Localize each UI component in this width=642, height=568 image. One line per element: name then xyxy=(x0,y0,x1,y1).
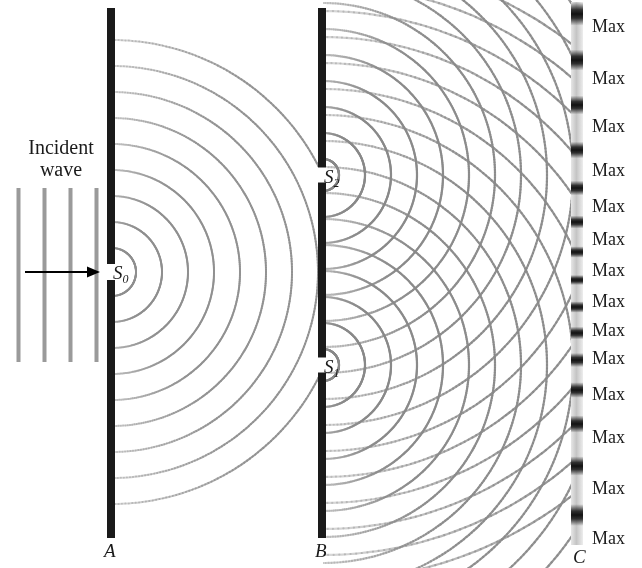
max-label: Max xyxy=(592,196,625,216)
max-label: Max xyxy=(592,260,625,280)
slit-s1-subscript: 1 xyxy=(334,366,340,380)
incident-wave-label-line1: Incident xyxy=(6,136,116,158)
slit-s1-label: S1 xyxy=(324,356,340,377)
wave-field-canvas xyxy=(0,0,642,568)
barrier-a-label: A xyxy=(104,540,116,561)
max-label: Max xyxy=(592,384,625,404)
max-label: Max xyxy=(592,160,625,180)
slit-s0-label: S0 xyxy=(113,262,129,283)
double-slit-diagram: Incident wave A B C S0 S2 S1 MaxMaxMaxMa… xyxy=(0,0,642,568)
slit-s2-label: S2 xyxy=(324,166,340,187)
barrier-b-label: B xyxy=(315,540,327,561)
max-label: Max xyxy=(592,16,625,36)
incident-wave-label-line2: wave xyxy=(6,158,116,180)
max-label: Max xyxy=(592,348,625,368)
slit-s0-letter: S xyxy=(113,262,123,283)
max-label: Max xyxy=(592,320,625,340)
slit-s1-letter: S xyxy=(324,356,334,377)
max-label: Max xyxy=(592,68,625,88)
max-label: Max xyxy=(592,291,625,311)
max-label: Max xyxy=(592,427,625,447)
max-label: Max xyxy=(592,116,625,136)
max-label: Max xyxy=(592,478,625,498)
max-label: Max xyxy=(592,229,625,249)
slit-s2-letter: S xyxy=(324,166,334,187)
max-label: Max xyxy=(592,528,625,548)
incident-wave-label: Incident wave xyxy=(6,136,116,181)
screen-c-label: C xyxy=(573,546,586,567)
slit-s0-subscript: 0 xyxy=(123,272,129,286)
slit-s2-subscript: 2 xyxy=(334,176,340,190)
